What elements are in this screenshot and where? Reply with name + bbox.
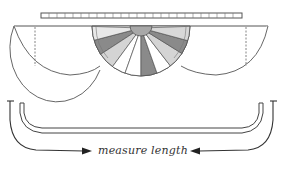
bracket-shape (20, 103, 263, 133)
center-fan (80, 26, 200, 78)
left-half-circle (10, 26, 100, 102)
right-half-circle (181, 26, 268, 75)
ruler (41, 13, 242, 18)
measure-length-caption: measure length (0, 144, 286, 157)
